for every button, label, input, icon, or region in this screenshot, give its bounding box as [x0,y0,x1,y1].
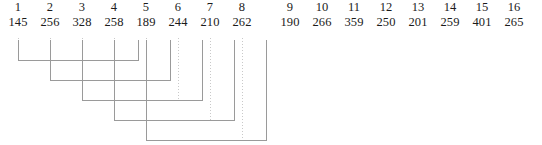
column-value-label: 262 [222,15,262,30]
bracket-linkage-figure: 1145225633284258518962447210826291901026… [0,0,542,145]
column-index-label: 8 [222,0,262,15]
column-index-label: 16 [494,0,534,15]
bracket-1 [18,40,138,60]
guide-lines-group [18,38,242,140]
column-8: 8262 [222,0,262,30]
brackets-group [18,40,266,140]
column-value-label: 265 [494,15,534,30]
bracket-5 [146,40,266,140]
bracket-3 [82,40,202,100]
column-16: 16265 [494,0,534,30]
